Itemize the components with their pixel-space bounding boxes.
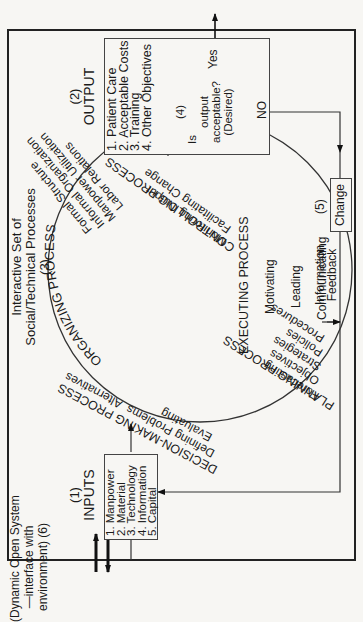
output-title: OUTPUT bbox=[82, 38, 96, 155]
processes-heading: Interactive Set of Social/Technical Proc… bbox=[10, 172, 52, 362]
information-feedback-label: Information Feedback bbox=[314, 230, 338, 320]
input-item: 5. Capital bbox=[147, 455, 158, 536]
output-item: 4. Other Objectives bbox=[142, 39, 154, 151]
inputs-heading: (1) INPUTS bbox=[68, 452, 96, 538]
processes-heading-line1: Interactive Set of bbox=[10, 172, 24, 362]
output-number: (2) bbox=[68, 38, 82, 155]
inputs-title: INPUTS bbox=[82, 452, 96, 538]
yes-label: Yes bbox=[207, 48, 220, 70]
executing-item: Motivating bbox=[264, 176, 277, 314]
decision-line: (Desired) bbox=[222, 72, 234, 152]
environment-label-line1: (Dynamic Open System bbox=[8, 512, 22, 622]
executing-item: Leading bbox=[290, 170, 303, 308]
output-heading: (2) OUTPUT bbox=[68, 38, 96, 155]
processes-number: (3) bbox=[38, 172, 52, 362]
environment-label: (Dynamic Open System —interface with env… bbox=[8, 512, 50, 622]
environment-label-line3: environment) (6) bbox=[36, 512, 50, 622]
inputs-number: (1) bbox=[68, 452, 82, 538]
processes-heading-line2: Social/Technical Processes bbox=[24, 172, 38, 362]
decision-label: (4) Is output acceptable? (Desired) bbox=[188, 72, 248, 152]
decision-line: Is bbox=[186, 72, 198, 152]
decision-number: (4) bbox=[174, 72, 186, 152]
change-box: Change bbox=[330, 178, 352, 232]
executing-title: EXECUTING PROCESS bbox=[238, 216, 251, 354]
feedback-number: (5) bbox=[314, 199, 327, 214]
environment-label-line2: —interface with bbox=[22, 512, 36, 622]
no-label: NO bbox=[256, 101, 269, 119]
input-item: 3. Technology bbox=[126, 455, 137, 536]
open-system-diagram: ORGANIZING PROCESS (Dynamic Open System … bbox=[0, 0, 363, 622]
information-feedback-line2: Feedback bbox=[326, 230, 338, 320]
executing-process: EXECUTING PROCESS Motivating Leading Com… bbox=[238, 216, 290, 354]
input-item: 1. Manpower bbox=[105, 455, 116, 536]
decision-line: output bbox=[198, 72, 210, 152]
inputs-box: 1. Manpower 2. Material 3. Technology 4.… bbox=[104, 454, 158, 540]
decision-line: acceptable? bbox=[210, 72, 222, 152]
